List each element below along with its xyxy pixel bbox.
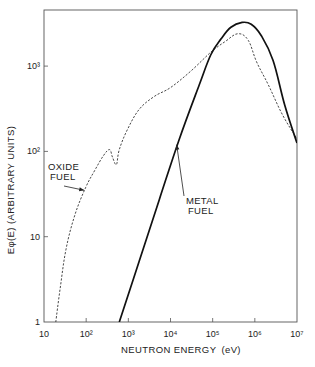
x-tick-label: 10⁴	[164, 329, 178, 339]
oxide-arrowhead-icon	[79, 187, 84, 191]
x-tick-label: 10⁶	[248, 329, 262, 339]
oxide-label-line2: FUEL	[50, 171, 75, 182]
x-axis-title: NEUTRON ENERGY(eV)	[121, 344, 241, 355]
x-axis-ticks: 1010²10³10⁴10⁵10⁶10⁷	[39, 318, 304, 339]
x-tick-label: 10	[39, 329, 49, 339]
flux-spectrum-chart: 1010²10³10⁴10⁵10⁶10⁷ 11010²10³ NEUTRON E…	[0, 0, 315, 367]
y-tick-label: 10³	[27, 61, 40, 71]
y-tick-label: 1	[35, 317, 40, 327]
metal-arrow	[177, 145, 184, 196]
x-tick-label: 10⁵	[206, 329, 220, 339]
y-axis-title: Eφ(E) (ARBITRARY UNITS)	[5, 126, 16, 255]
x-tick-label: 10⁷	[290, 329, 303, 339]
metal-label-line2: FUEL	[188, 205, 213, 216]
oxide-fuel-curve	[56, 34, 297, 322]
y-tick-label: 10²	[27, 146, 40, 156]
metal-fuel-annotation: METAL FUEL	[175, 145, 218, 216]
x-tick-label: 10²	[80, 329, 93, 339]
oxide-fuel-annotation: OXIDE FUEL	[48, 161, 84, 191]
y-axis-ticks: 11010²10³	[27, 61, 48, 327]
x-tick-label: 10³	[122, 329, 135, 339]
y-tick-label: 10	[30, 232, 40, 242]
metal-fuel-curve	[119, 22, 297, 322]
